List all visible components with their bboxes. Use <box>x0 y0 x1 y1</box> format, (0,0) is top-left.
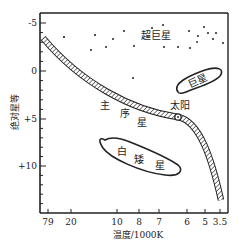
sun-marker <box>175 114 181 120</box>
main-sequence-band <box>43 38 221 200</box>
x-tick-label: 5 <box>202 217 208 227</box>
x-tick-label: 79 <box>42 217 54 227</box>
x-tick-labels: 79 20 10 8 7 6 5 3.5 <box>42 217 227 227</box>
hr-diagram: -5 0 +5 +10 绝对星等 79 20 10 8 7 6 5 3.5 温度… <box>0 0 241 250</box>
main-sequence-label-1: 主 <box>100 100 110 111</box>
y-axis-ticks <box>40 23 46 204</box>
y-tick-label: 0 <box>31 66 37 76</box>
x-tick-label: 6 <box>184 217 190 227</box>
x-tick-label: 20 <box>65 217 77 227</box>
y-tick-label: +5 <box>24 114 38 124</box>
y-tick-label: -5 <box>28 18 37 28</box>
svg-text:绝对星等: 绝对星等 <box>9 94 20 130</box>
main-sequence-label-2: 序 <box>120 107 130 119</box>
y-tick-labels: -5 0 +5 +10 <box>18 18 37 171</box>
x-tick-label: 8 <box>136 217 142 227</box>
x-tick-label: 3.5 <box>213 217 228 227</box>
y-axis-title: 绝对星等 <box>9 94 20 130</box>
x-axis-title: 温度/1000K <box>113 229 164 240</box>
sun-label: 太阳 <box>170 99 190 111</box>
y-tick-label: +10 <box>18 161 37 171</box>
white-dwarf-label-1: 白 <box>117 145 127 157</box>
main-sequence-label-3: 星 <box>137 117 147 128</box>
white-dwarf-label-3: 星 <box>155 160 165 171</box>
x-tick-label: 7 <box>156 217 162 227</box>
giant-region: 巨星 <box>177 68 222 93</box>
plot-frame <box>40 13 228 213</box>
supergiant-label: 超巨星 <box>141 29 171 41</box>
x-tick-label: 10 <box>111 217 123 227</box>
white-dwarf-label-2: 矮 <box>134 154 144 165</box>
